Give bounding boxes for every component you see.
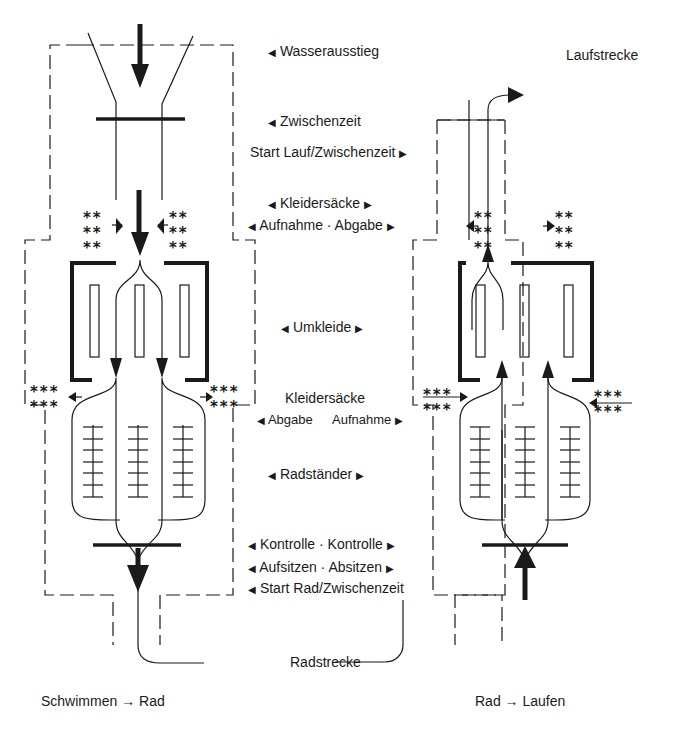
arrow-down-icon (131, 64, 149, 88)
triangle-right-icon: ▶ (364, 199, 372, 210)
label-abgabe: ◀ Abgabe (257, 412, 313, 429)
label-aufnahme: Aufnahme ▶ (332, 412, 403, 429)
bike-racks-left (83, 425, 193, 497)
arrow-down-icon (127, 565, 149, 592)
triangle-right-icon: ▶ (387, 540, 395, 551)
bike-racks-right (470, 427, 580, 497)
transition-zone-diagram (0, 0, 673, 732)
triangle-right-icon: ▶ (355, 323, 363, 334)
triangle-right-icon: ▶ (356, 470, 364, 481)
label-kleidersaecke-top: ◀ Kleidersäcke ▶ (268, 195, 372, 213)
label-aufsitzen: ◀ Aufsitzen · Absitzen ▶ (248, 559, 394, 577)
label-wasserausstieg: ◀ Wasserausstieg (268, 43, 379, 61)
clothing-bags-icon: ** ** ** (83, 211, 103, 256)
triangle-left-icon: ◀ (248, 540, 256, 551)
label-start-lauf: Start Lauf/Zwischenzeit ▶ (250, 144, 407, 162)
triangle-left-icon: ◀ (268, 117, 276, 128)
clothing-bags-icon: *** *** (210, 385, 240, 415)
triangle-left-icon: ◀ (268, 199, 276, 210)
label-umkleide: ◀ Umkleide ▶ (281, 319, 363, 337)
label-zwischenzeit: ◀ Zwischenzeit (268, 113, 361, 131)
triangle-right-icon: ▶ (386, 563, 394, 574)
bike-course-path (138, 590, 403, 663)
triangle-left-icon: ◀ (248, 584, 256, 595)
label-kleidersaecke-mid: Kleidersäcke (285, 390, 365, 406)
label-radstrecke: Radstrecke (290, 654, 361, 670)
caption-swim-to-bike: Schwimmen → Rad (41, 693, 165, 709)
label-kontrolle: ◀ Kontrolle · Kontrolle ▶ (248, 536, 395, 554)
clothing-bags-icon: ** ** ** (555, 211, 575, 256)
arrow-right-icon (508, 87, 524, 103)
label-radstaender: ◀ Radständer ▶ (268, 466, 364, 484)
clothing-bags-icon: ** ** ** (169, 211, 189, 256)
caption-bike-to-run: Rad → Laufen (475, 693, 565, 709)
label-laufstrecke: Laufstrecke (566, 47, 638, 63)
label-aufnahme-abgabe: ◀ Aufnahme · Abgabe ▶ (248, 217, 395, 235)
triangle-right-icon: ▶ (399, 148, 407, 159)
triangle-left-icon: ◀ (248, 563, 256, 574)
triangle-left-icon: ◀ (248, 221, 256, 232)
triangle-left-icon: ◀ (268, 470, 276, 481)
clothing-bags-icon: *** *** (30, 385, 60, 415)
clothing-bags-icon: *** *** (423, 388, 453, 418)
arrow-down-icon (131, 232, 149, 256)
right-zone-boundary (413, 120, 523, 645)
triangle-left-icon: ◀ (268, 47, 276, 58)
triangle-right-icon: ▶ (387, 221, 395, 232)
arrow-up-icon (514, 546, 536, 568)
label-start-rad: ◀ Start Rad/Zwischenzeit (248, 580, 404, 598)
triangle-left-icon: ◀ (257, 415, 265, 426)
triangle-left-icon: ◀ (281, 323, 289, 334)
clothing-bags-icon: *** *** (594, 390, 624, 420)
changing-room-left (72, 263, 207, 380)
triangle-right-icon: ▶ (395, 415, 403, 426)
clothing-bags-icon: ** ** ** (474, 211, 494, 256)
